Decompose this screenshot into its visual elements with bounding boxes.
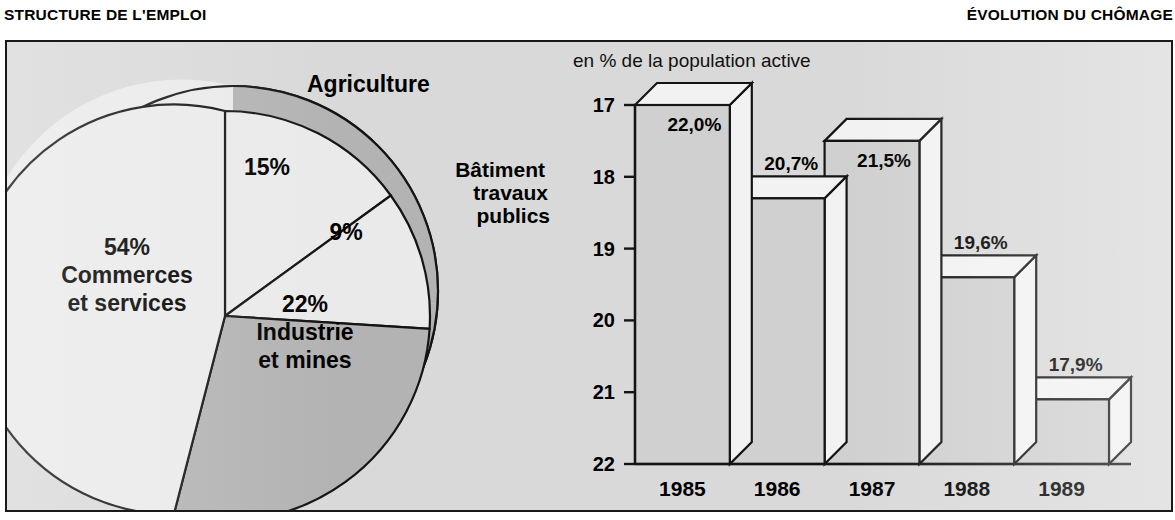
heading-structure-emploi: STRUCTURE DE L'EMPLOI bbox=[4, 6, 207, 24]
bar-column[interactable] bbox=[635, 83, 752, 464]
pie-value-batiment: 9% bbox=[329, 219, 362, 245]
heading-evolution-chomage: ÉVOLUTION DU CHÔMAGE bbox=[967, 6, 1173, 24]
bar-value-label: 22,0% bbox=[667, 114, 721, 135]
pie-label-commerces-line2: et services bbox=[68, 290, 187, 316]
pie-label-industrie-line2: et mines bbox=[258, 347, 351, 373]
bar-top-face bbox=[635, 83, 752, 105]
pie-value-commerces: 54% bbox=[104, 234, 150, 260]
x-tick-label: 1985 bbox=[659, 477, 706, 500]
bar-side-face bbox=[730, 83, 752, 464]
y-tick-label: 20 bbox=[593, 309, 615, 331]
bar-chart-caption: en % de la population active bbox=[573, 50, 811, 71]
figure-root: STRUCTURE DE L'EMPLOI ÉVOLUTION DU CHÔMA… bbox=[0, 0, 1175, 520]
pie-label-batiment-line3: publics bbox=[476, 204, 550, 227]
bar-side-face bbox=[919, 119, 941, 464]
bar-side-face bbox=[1014, 255, 1036, 464]
bar-chart: en % de la population active 22212019181… bbox=[555, 42, 1173, 510]
y-tick-label: 22 bbox=[593, 453, 615, 475]
bar-value-label: 21,5% bbox=[857, 150, 911, 171]
y-axis: 222120191817 bbox=[593, 94, 635, 475]
pie-value-agriculture: 15% bbox=[244, 154, 290, 180]
x-tick-label: 1988 bbox=[943, 477, 990, 500]
pie-label-batiment-line2: travaux bbox=[473, 181, 548, 204]
y-tick-label: 21 bbox=[593, 381, 615, 403]
x-tick-label: 1989 bbox=[1038, 477, 1085, 500]
y-tick-label: 18 bbox=[593, 166, 615, 188]
pie-label-batiment-line1: Bâtiment bbox=[455, 158, 545, 181]
bar-value-label: 19,6% bbox=[954, 232, 1008, 253]
bar-side-face bbox=[825, 176, 847, 464]
pie-label-industrie-line1: Industrie bbox=[256, 319, 353, 345]
bars-group: 22,0%20,7%21,5%19,6%17,9% bbox=[635, 83, 1131, 464]
pie-label-commerces-line1: Commerces bbox=[61, 262, 193, 288]
bar-front-face bbox=[635, 105, 730, 464]
x-axis: 19851986198719881989 bbox=[659, 477, 1085, 500]
charts-panel: Agriculture Bâtiment travaux publics 15%… bbox=[5, 40, 1173, 512]
pie-value-industrie: 22% bbox=[282, 291, 328, 317]
pie-label-agriculture: Agriculture bbox=[307, 71, 430, 97]
y-tick-label: 19 bbox=[593, 238, 615, 260]
x-tick-label: 1986 bbox=[754, 477, 801, 500]
pie-chart: Agriculture Bâtiment travaux publics 15%… bbox=[7, 42, 587, 510]
bar-top-face bbox=[825, 119, 942, 141]
x-tick-label: 1987 bbox=[849, 477, 896, 500]
bar-value-label: 20,7% bbox=[764, 153, 818, 174]
bar-value-label: 17,9% bbox=[1049, 354, 1103, 375]
y-tick-label: 17 bbox=[593, 94, 615, 116]
